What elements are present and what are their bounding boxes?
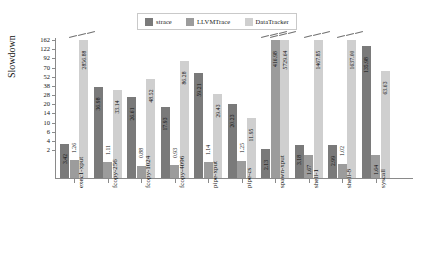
bar-value-label: 3.18 <box>296 155 302 165</box>
bar-value-label: 63.63 <box>382 81 388 94</box>
y-tick-mark <box>52 104 55 105</box>
y-tick-label: 70 <box>44 64 51 71</box>
bar-value-label: 1637.00 <box>349 51 355 70</box>
y-tick-mark <box>52 132 55 133</box>
legend-item-llvmtrace: LLVMTrace <box>186 18 230 26</box>
bar-value-label: 33.14 <box>114 101 120 114</box>
y-tick-label: 28 <box>44 91 51 98</box>
bar-group: 3.181.671467.85 <box>295 38 323 178</box>
bar-value-label: 48.52 <box>148 89 154 102</box>
y-tick-mark <box>52 123 55 124</box>
bar-value-label: 1.25 <box>239 143 245 153</box>
bar-datatracker: 63.63 <box>381 71 390 178</box>
bar-strace: 36.98 <box>94 87 103 178</box>
x-axis-tick <box>242 179 243 183</box>
bar-group: 36.981.1133.14 <box>94 38 122 178</box>
x-axis-label: shell-8 <box>345 169 353 188</box>
bar-strace: 20.23 <box>228 104 237 178</box>
bar-value-label: 1.02 <box>339 146 345 156</box>
x-axis-label: fcopy-1024 <box>144 156 152 188</box>
x-axis-tick <box>208 179 209 183</box>
y-tick-mark <box>52 113 55 114</box>
x-axis-tick <box>275 179 276 183</box>
y-tick-label: 6 <box>47 128 50 135</box>
y-tick-mark <box>52 58 55 59</box>
x-axis-tick <box>74 179 75 183</box>
chart-figure: strace LLVMTrace DataTracker Slowdown 16… <box>0 0 429 256</box>
y-tick-label: 52 <box>44 73 51 80</box>
legend-label-llvmtrace: LLVMTrace <box>197 18 230 25</box>
x-axis-tick <box>175 179 176 183</box>
bar-strace: 2.99 <box>328 145 337 178</box>
chart-legend: strace LLVMTrace DataTracker <box>137 13 297 30</box>
x-axis-tick <box>108 179 109 183</box>
x-axis-label: pipe-cs <box>245 168 253 188</box>
y-tick-label: 4 <box>47 137 50 144</box>
bar-value-label: 1.11 <box>105 145 111 155</box>
bar-group: 135.981.6463.63 <box>362 38 390 178</box>
x-axis-label: syscall <box>379 169 387 188</box>
legend-swatch-strace <box>145 18 153 26</box>
y-tick-mark <box>52 68 55 69</box>
bar-value-label: 86.28 <box>181 71 187 84</box>
y-tick-mark <box>52 141 55 142</box>
bar-strace: 26.61 <box>127 97 136 178</box>
bar-value-label: 1.26 <box>71 143 77 153</box>
bar-value-label: 11.95 <box>248 129 254 142</box>
bar-value-label: 0.93 <box>172 147 178 157</box>
y-tick-label: 122 <box>40 45 50 52</box>
bar-datatracker: 1467.85 <box>314 40 323 178</box>
bar-group: 59.211.1429.43 <box>194 38 222 178</box>
legend-label-datatracker: DataTracker <box>256 18 289 25</box>
bar-strace: 3.18 <box>295 145 304 178</box>
bar-strace: 17.93 <box>161 107 170 178</box>
y-tick-label: 38 <box>44 82 51 89</box>
x-axis-line <box>55 178 413 179</box>
bar-value-label: 26.61 <box>129 107 135 120</box>
x-axis-label: spawn-xput <box>278 155 286 188</box>
x-axis-tick <box>376 179 377 183</box>
y-tick-label: 2 <box>47 146 50 153</box>
bar-group: 20.231.2511.95 <box>228 38 256 178</box>
bar-value-label: 1467.85 <box>315 51 321 70</box>
x-axis-label: pipe-xput <box>211 161 219 188</box>
bar-datatracker: 1637.00 <box>347 40 356 178</box>
x-axis-label: exec1-xput <box>77 157 85 188</box>
y-tick-mark <box>52 77 55 78</box>
bar-value-label: 2856.88 <box>81 51 87 70</box>
legend-item-strace: strace <box>145 18 172 26</box>
x-axis-label: fcopy-4096 <box>178 156 186 188</box>
bar-value-label: 2.99 <box>330 156 336 166</box>
plot-area: 16212292705238282014106423.421.262856.88… <box>55 38 407 178</box>
bar-value-label: 5729.64 <box>282 51 288 70</box>
y-tick-label: 162 <box>40 36 50 43</box>
legend-swatch-datatracker <box>245 18 253 26</box>
y-tick-label: 20 <box>44 100 51 107</box>
y-axis-title: Slowdown <box>6 35 17 78</box>
bar-value-label: 17.93 <box>162 118 168 131</box>
x-axis-tick <box>141 179 142 183</box>
y-tick-label: 10 <box>44 119 51 126</box>
y-tick-mark <box>52 40 55 41</box>
bar-value-label: 20.23 <box>229 114 235 127</box>
y-tick-mark <box>52 150 55 151</box>
y-tick-label: 92 <box>44 54 51 61</box>
bar-value-label: 2.13 <box>263 160 269 170</box>
x-axis-tick <box>342 179 343 183</box>
x-axis-label: fcopy-256 <box>111 159 119 188</box>
bar-value-label: 1.14 <box>205 145 211 155</box>
legend-label-strace: strace <box>156 18 172 25</box>
y-tick-label: 14 <box>44 109 51 116</box>
bar-value-label: 416.98 <box>272 51 278 67</box>
bar-value-label: 59.21 <box>196 83 202 96</box>
bar-strace: 135.98 <box>362 46 371 178</box>
legend-swatch-llvmtrace <box>186 18 194 26</box>
bar-value-label: 1.64 <box>373 165 379 175</box>
bar-strace: 2.13 <box>261 149 270 178</box>
bar-strace: 59.21 <box>194 73 203 178</box>
y-tick-mark <box>52 49 55 50</box>
bar-value-label: 1.67 <box>306 165 312 175</box>
bar-value-label: 36.98 <box>95 97 101 110</box>
bar-value-label: 3.42 <box>62 154 68 164</box>
x-axis-label: shell-1 <box>312 169 320 188</box>
